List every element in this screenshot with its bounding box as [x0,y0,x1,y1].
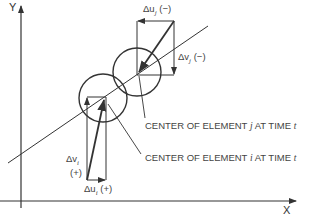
du-j-label: Δuj (−) [143,4,171,17]
y-axis-label: Y [9,2,16,13]
leader-i [108,104,141,154]
leader-j [139,76,145,118]
center-i-label: CENTER OF ELEMENT i AT TIME t [145,153,296,164]
dv-i-label: Δvi [66,154,79,167]
dv-i-sign: (+) [70,168,82,178]
du-i-label: Δui (+) [84,184,112,197]
center-j-label: CENTER OF ELEMENT j AT TIME t [145,121,296,132]
center-line [8,26,208,163]
x-axis-label: X [283,205,290,216]
diagram-canvas [0,0,318,216]
dv-j-label: Δvj (−) [178,52,206,65]
element-i-displacement [87,97,106,180]
